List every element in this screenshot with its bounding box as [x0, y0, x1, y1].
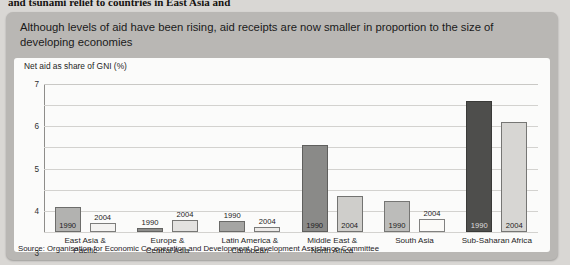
bar-2004[interactable]: 2004	[90, 223, 116, 233]
bar-1990[interactable]: 1990	[384, 201, 410, 232]
bar-group: 19902004	[126, 84, 208, 232]
bar-year-label: 2004	[94, 213, 111, 222]
category-label-line: South Asia	[373, 236, 455, 246]
bar-group: 19902004	[44, 84, 126, 232]
figure-panel: Although levels of aid have been rising,…	[6, 12, 558, 260]
figure-title: Although levels of aid have been rising,…	[20, 20, 540, 49]
bar-pair: 19902004	[126, 84, 208, 232]
bar-2004[interactable]: 2004	[172, 220, 198, 232]
y-tick-label: 6	[19, 122, 39, 131]
bar-groups: 1990200419902004199020041990200419902004…	[44, 84, 538, 232]
chart-subtitle: Net aid as share of GNI (%)	[24, 61, 127, 71]
bar-year-label: 1990	[306, 221, 323, 230]
bar-year-label: 2004	[341, 221, 358, 230]
bar-year-label: 1990	[224, 211, 241, 220]
bar-group: 19902004	[291, 84, 373, 232]
plot-area: 01234567 1990200419902004199020041990200…	[44, 84, 538, 236]
bar-pair: 19902004	[373, 84, 455, 232]
bar-group: 19902004	[456, 84, 538, 232]
chart-source-note: Source: Organisation for Economic Co-ope…	[18, 244, 379, 253]
bar-year-label: 1990	[389, 221, 406, 230]
bar-group: 19902004	[209, 84, 291, 232]
bar-pair: 19902004	[456, 84, 538, 232]
bar-1990[interactable]: 1990	[302, 145, 328, 232]
category-label: Sub-Saharan Africa	[456, 236, 538, 256]
bar-2004[interactable]: 2004	[254, 227, 280, 232]
bar-pair: 19902004	[291, 84, 373, 232]
bar-1990[interactable]: 1990	[55, 207, 81, 232]
bar-year-label: 1990	[59, 221, 76, 230]
bar-year-label: 2004	[177, 210, 194, 219]
page-body-text-cut: and tsunami relief to countries in East …	[8, 0, 338, 8]
bar-year-label: 2004	[259, 217, 276, 226]
bar-2004[interactable]: 2004	[419, 219, 445, 232]
bar-2004[interactable]: 2004	[501, 122, 527, 232]
bar-group: 19902004	[373, 84, 455, 232]
bar-year-label: 2004	[424, 209, 441, 218]
bar-year-label: 2004	[506, 221, 523, 230]
y-tick-label: 7	[19, 80, 39, 89]
bar-1990[interactable]: 1990	[466, 101, 492, 232]
bar-2004[interactable]: 2004	[337, 196, 363, 232]
bar-year-label: 1990	[471, 221, 488, 230]
gridline-0: 0	[44, 232, 538, 233]
category-label: South Asia	[373, 236, 455, 256]
category-label-line: Sub-Saharan Africa	[456, 236, 538, 246]
figure-page: and tsunami relief to countries in East …	[0, 0, 570, 265]
bar-1990[interactable]: 1990	[137, 228, 163, 232]
bar-1990[interactable]: 1990	[219, 221, 245, 232]
y-tick-label: 5	[19, 164, 39, 173]
bar-year-label: 1990	[142, 218, 159, 227]
bar-pair: 19902004	[209, 84, 291, 232]
bar-pair: 19902004	[44, 84, 126, 232]
chart-card: Net aid as share of GNI (%) 01234567 199…	[14, 58, 550, 252]
y-tick-label: 4	[19, 206, 39, 215]
